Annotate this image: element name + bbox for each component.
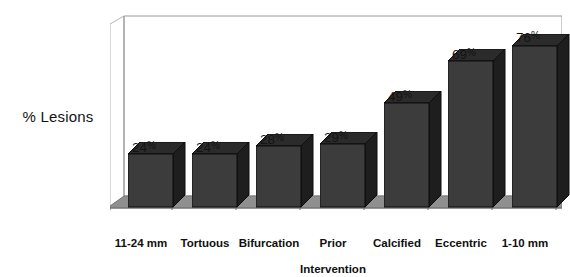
- bar-front-face: [448, 61, 493, 207]
- percent-sign: %: [339, 130, 348, 141]
- value-number: 28: [260, 132, 275, 147]
- bar-front-face: [384, 103, 429, 207]
- cat-label-line1: Eccentric: [428, 237, 494, 250]
- value-label-bifurcation: 28%: [240, 132, 304, 147]
- cat-label-calcified: Calcified: [364, 224, 430, 263]
- cat-label-tortuous: Tortuous: [172, 224, 238, 263]
- bar-1-10-mm: [512, 34, 570, 208]
- bar-3d-shape: [512, 34, 570, 208]
- percent-sign: %: [531, 30, 540, 41]
- cat-label-line1: Calcified: [364, 237, 430, 250]
- percent-sign: %: [275, 132, 284, 143]
- bar-calcified: [384, 91, 442, 208]
- value-number: 69: [452, 47, 467, 62]
- percent-sign: %: [467, 47, 476, 58]
- cat-label-1-10-mm: 1-10 mm: [492, 224, 558, 263]
- cat-label-line1: 11-24 mm: [108, 237, 174, 250]
- value-label-eccentric: 69%: [432, 47, 496, 62]
- cat-label-line1: Tortuous: [172, 237, 238, 250]
- value-label-prior-intervention: 29%: [304, 130, 368, 145]
- bar-3d-shape: [384, 91, 442, 208]
- percent-sign: %: [211, 140, 220, 151]
- value-number: 29: [324, 130, 339, 145]
- bar-front-face: [192, 154, 237, 207]
- bar-front-face: [256, 146, 301, 207]
- cat-label-eccentric: Eccentric: [428, 224, 494, 263]
- cat-label-11-24-mm: 11-24 mm: [108, 224, 174, 263]
- value-label-tortuous: 24%: [176, 140, 240, 155]
- cat-label-line1: 1-10 mm: [492, 237, 558, 250]
- value-label-calcified: 49%: [368, 89, 432, 104]
- bar-front-face: [320, 144, 365, 207]
- value-number: 24: [196, 140, 211, 155]
- bar-front-face: [128, 154, 173, 207]
- bar-front-face: [512, 46, 557, 207]
- percent-sign: %: [403, 89, 412, 100]
- y-axis-title: % Lesions: [8, 108, 108, 125]
- bar-eccentric: [448, 49, 506, 208]
- value-number: 24: [132, 140, 147, 155]
- cat-label-bifurcation: Bifurcation: [234, 224, 304, 263]
- bars-layer: [110, 10, 562, 210]
- bar-side-face: [493, 49, 505, 207]
- cat-label-line2: Intervention: [300, 263, 366, 276]
- cat-label-line1: Prior: [300, 237, 366, 250]
- cat-label-prior-intervention: Prior Intervention: [300, 224, 366, 277]
- x-axis-category-labels: 11-24 mm Tortuous Bifurcation Prior Inte…: [110, 224, 562, 258]
- bar-side-face: [429, 91, 441, 207]
- cat-label-line1: Bifurcation: [234, 237, 304, 250]
- value-number: 76: [516, 30, 531, 45]
- value-number: 49: [388, 89, 403, 104]
- bar-side-face: [557, 34, 569, 207]
- value-label-11-24-mm: 24%: [112, 140, 176, 155]
- value-label-1-10-mm: 76%: [496, 30, 560, 45]
- bar-3d-shape: [448, 49, 506, 208]
- percent-sign: %: [147, 140, 156, 151]
